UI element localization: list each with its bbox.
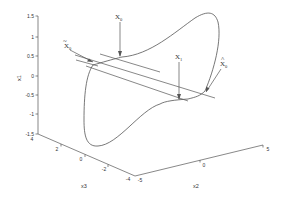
chart-svg: 1.5 1 0.5 0 -0.5 -1 -1.5 x1 4 2 0 -2 -4 … — [0, 0, 283, 200]
tilde-accent: ~ — [63, 37, 67, 45]
x2-axis-label: x2 — [193, 183, 199, 189]
x2-tick: 5 — [267, 146, 270, 152]
annotation-x1: X1 — [175, 53, 182, 62]
z-tick: -0.5 — [25, 92, 34, 98]
trajectory-curve — [84, 13, 219, 146]
x3-tick-labels: 4 2 0 -2 -4 — [31, 136, 131, 182]
z-tick: 0.5 — [27, 53, 34, 59]
x3-axis — [38, 134, 135, 176]
section-planes — [75, 54, 215, 101]
x2-tick: 0 — [203, 162, 206, 168]
x3-axis-label: x3 — [81, 183, 87, 189]
annotation-labels: X0 ~ X0 X1 X0 ^ — [63, 13, 228, 69]
x2-tick: -5 — [138, 177, 143, 183]
z-axis — [36, 16, 39, 134]
x3-tick: -4 — [126, 176, 131, 182]
z-tick: -1 — [30, 111, 35, 117]
z-tick: 1.5 — [27, 13, 34, 19]
figure: 1.5 1 0.5 0 -0.5 -1 -1.5 x1 4 2 0 -2 -4 … — [0, 0, 283, 200]
x3-tick: 2 — [56, 146, 59, 152]
z-axis-label: x1 — [16, 75, 22, 81]
z-tick: 1 — [31, 34, 34, 40]
arrowheads — [87, 51, 210, 100]
x3-tick: -2 — [102, 166, 107, 172]
annotation-x0: X0 — [115, 13, 123, 22]
x2-tick-labels: -5 0 5 — [138, 146, 270, 183]
x3-tick: 4 — [31, 136, 34, 142]
x3-tick: 0 — [80, 156, 83, 162]
x2-axis — [135, 145, 263, 176]
z-tick: 0 — [31, 73, 34, 79]
z-tick-labels: 1.5 1 0.5 0 -0.5 -1 -1.5 — [25, 13, 34, 137]
